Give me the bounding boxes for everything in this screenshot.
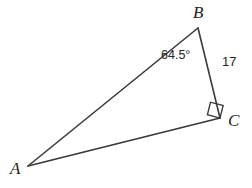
side-length-label-bc: 17: [222, 55, 236, 68]
angle-measure-label-b: 64.5°: [161, 49, 190, 62]
vertex-label-b: B: [193, 4, 203, 21]
vertex-label-a: A: [10, 160, 20, 177]
right-angle-square-icon: [207, 102, 223, 118]
triangle-drawing: [0, 0, 252, 188]
vertex-label-c: C: [228, 112, 239, 129]
geometry-figure: A B C 64.5° 17: [0, 0, 252, 188]
